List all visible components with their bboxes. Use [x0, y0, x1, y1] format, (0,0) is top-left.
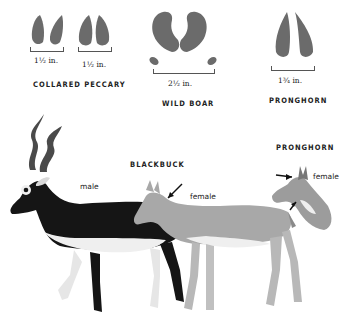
peccary-track-hind [79, 15, 109, 45]
pronghorn-bracket [271, 66, 315, 71]
blackbuck-male-label: male [80, 182, 99, 191]
blackbuck-female-label: female [190, 192, 216, 201]
peccary-hind-measure: 1½ in. [82, 60, 106, 69]
peccary-front-bracket [30, 47, 64, 52]
peccary-track-front [32, 15, 63, 44]
peccary-hind-bracket [78, 47, 112, 52]
blackbuck-title: BLACKBUCK [130, 160, 185, 169]
pronghorn-track [276, 12, 313, 57]
wild-boar-measure: 2½ in. [168, 79, 192, 88]
peccary-front-measure: 1½ in. [34, 56, 58, 65]
pronghorn-female-label: female [313, 172, 339, 181]
peccary-caption: COLLARED PECCARY [33, 80, 126, 89]
pronghorn-title: PRONGHORN [276, 143, 334, 152]
wild-boar-track [148, 12, 218, 67]
wild-boar-caption: WILD BOAR [162, 99, 214, 108]
pronghorn-measure: 1¾ in. [278, 76, 302, 85]
pronghorn-track-caption: PRONGHORN [269, 96, 327, 105]
wild-boar-bracket [153, 69, 215, 74]
